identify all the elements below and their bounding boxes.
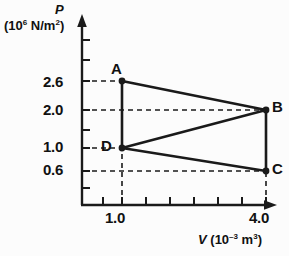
- point-label-a: A: [111, 60, 122, 77]
- x-unit-exponent: –3: [229, 232, 238, 241]
- data-point-b: [263, 107, 270, 114]
- y-tick-label-0-6: 0.6: [43, 161, 63, 178]
- x-unit-close: ): [258, 232, 262, 247]
- y-tick-label-2-6: 2.6: [43, 73, 63, 90]
- axes-group: [77, 14, 277, 210]
- point-label-c: C: [272, 160, 283, 177]
- data-point-c: [263, 168, 270, 175]
- x-tick-label-4-0: 4.0: [249, 209, 269, 226]
- segment-c-d: [122, 148, 266, 171]
- pv-diagram-figure: P (106 N/m2) V (10–3 m3) 2.6 2.0 1.0 0.6…: [0, 0, 289, 256]
- y-tick-label-2-0: 2.0: [43, 101, 63, 118]
- y-unit-suffix: N/m: [27, 18, 55, 33]
- segment-d-b: [122, 110, 266, 148]
- pv-diagram-canvas: [0, 0, 289, 256]
- x-unit-mid: m: [238, 232, 253, 247]
- process-path-group: [122, 81, 266, 171]
- y-axis-symbol: P: [55, 2, 64, 17]
- y-unit-close: ): [60, 18, 64, 33]
- x-axis-label: V (10–3 m3): [198, 232, 262, 247]
- x-axis-symbol: V: [198, 232, 207, 247]
- y-tick-label-1-0: 1.0: [43, 138, 63, 155]
- x-tick-label-1-0: 1.0: [105, 209, 125, 226]
- data-point-d: [119, 145, 126, 152]
- data-point-a: [119, 78, 126, 85]
- point-label-d: D: [101, 137, 112, 154]
- y-unit-prefix: (10: [4, 18, 23, 33]
- y-axis-arrowhead: [77, 14, 87, 27]
- segment-a-b: [122, 81, 266, 110]
- x-unit-prefix: (10: [210, 232, 229, 247]
- y-axis-unit-label: (106 N/m2): [4, 18, 64, 33]
- point-label-b: B: [272, 98, 283, 115]
